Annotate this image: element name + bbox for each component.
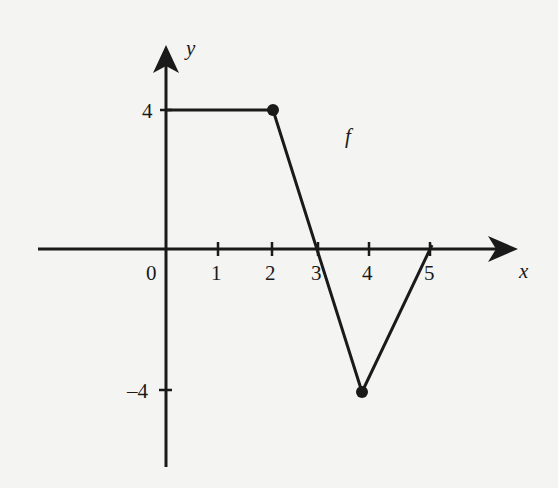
closed-point-2-4 — [267, 104, 279, 116]
y-axis-label: y — [184, 36, 196, 60]
x-tick-label-5: 5 — [424, 261, 435, 285]
function-label-f: f — [345, 124, 354, 148]
function-graph: 0 1 2 3 4 5 x 4 –4 y f — [0, 0, 558, 488]
y-tick-label-4: 4 — [142, 99, 153, 123]
origin-label: 0 — [146, 261, 157, 285]
closed-point-4-neg4 — [356, 386, 368, 398]
x-axis-label: x — [518, 259, 529, 283]
x-tick-label-2: 2 — [265, 261, 276, 285]
y-tick-label-neg4: –4 — [126, 379, 149, 403]
x-tick-label-1: 1 — [211, 261, 222, 285]
function-f-line — [166, 110, 432, 392]
x-tick-label-4: 4 — [362, 261, 373, 285]
x-tick-label-3: 3 — [311, 261, 322, 285]
